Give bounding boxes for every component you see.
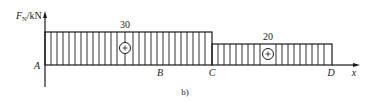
plus-circle-icon [263,49,274,60]
value-label-20: 20 [263,31,273,42]
value-label-30: 30 [120,19,130,30]
arrow-up-icon [43,11,47,18]
y-axis [43,11,47,87]
figure-caption: b) [181,87,189,97]
point-label-d: D [326,67,335,78]
y-axis-label: FN/kN [15,10,42,22]
axial-force-diagram: FN/kN 30 20 A B C D x b) [0,0,371,103]
point-label-c: C [209,67,216,78]
point-label-a: A [33,60,41,71]
point-label-b: B [157,67,163,78]
x-axis-label: x [351,67,357,78]
plus-circle-icon [120,43,131,54]
